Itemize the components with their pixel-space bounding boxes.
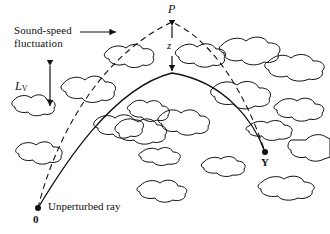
blob (246, 121, 292, 141)
origin-label: 0 (33, 213, 39, 226)
blob (158, 110, 210, 135)
unperturbed-ray-label: Unperturbed ray (48, 200, 120, 213)
sound-speed-label-line1: Sound-speed (14, 24, 72, 36)
blob (127, 100, 169, 121)
blob (139, 148, 181, 166)
fluctuation-blobs (12, 37, 330, 202)
blob (201, 157, 245, 177)
sound-speed-fluctuation-label: Sound-speed fluctuation (14, 24, 72, 49)
blob (61, 76, 116, 102)
blob (12, 95, 55, 116)
blob (175, 44, 225, 67)
figure-canvas: Sound-speed fluctuation LV P z Y 0 Unper… (0, 0, 330, 234)
blob (258, 176, 314, 200)
blob (288, 135, 330, 162)
point-y-label: Y (261, 156, 269, 169)
z-offset-label: z (167, 39, 171, 52)
scale-length-label: LV (15, 80, 27, 94)
unperturbed-ray-path (38, 73, 265, 208)
receiver-point-dot (262, 149, 268, 155)
blob (104, 44, 154, 67)
origin-point-dot (35, 205, 41, 211)
point-p-label: P (168, 3, 175, 17)
blob (115, 119, 167, 144)
blob (16, 142, 62, 164)
blob (265, 54, 324, 81)
blob (219, 37, 280, 65)
blob (137, 180, 187, 202)
sound-speed-label-line2: fluctuation (14, 37, 72, 50)
blob (274, 98, 324, 121)
blob (211, 81, 271, 108)
scale-length-subscript: V (22, 84, 28, 93)
scale-length-symbol: L (15, 79, 22, 93)
